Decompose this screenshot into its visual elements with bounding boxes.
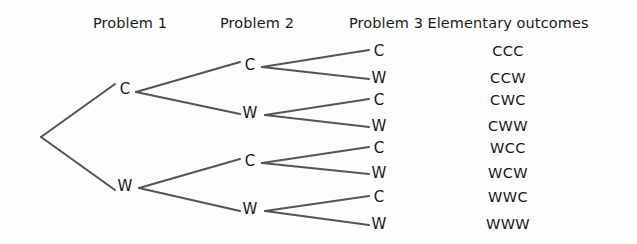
outcome-WWC: WWC — [488, 189, 528, 205]
tree-edge-level2-c-w-to-level3-cwc — [265, 99, 369, 115]
tree-edge-root-to-level1-w — [41, 137, 115, 190]
tree-node-level1-c: C — [120, 80, 131, 98]
tree-node-level3-cwc: C — [374, 91, 385, 109]
tree-edge-level1-c-to-level2-c-c — [136, 62, 240, 92]
tree-node-level3-wcw: W — [371, 164, 386, 182]
tree-edge-level2-w-c-to-level3-wcc — [262, 147, 369, 163]
tree-node-level3-wcc: C — [374, 139, 385, 157]
tree-node-level3-www: W — [371, 215, 386, 233]
tree-edge-level2-w-w-to-level3-wwc — [265, 196, 369, 211]
tree-node-level3-cww: W — [371, 117, 386, 135]
outcome-WCW: WCW — [488, 165, 528, 181]
tree-diagram-figure: Problem 1Problem 2Problem 3Elementary ou… — [0, 0, 637, 244]
tree-node-level3-ccw: W — [371, 69, 386, 87]
tree-edge-level1-w-to-level2-w-w — [139, 188, 240, 211]
tree-edge-root-to-level1-c — [41, 84, 115, 137]
tree-edge-level2-w-w-to-level3-www — [265, 211, 369, 225]
tree-node-level3-wwc: C — [374, 188, 385, 206]
outcome-CWW: CWW — [488, 118, 528, 134]
tree-edge-level1-w-to-level2-w-c — [139, 159, 240, 188]
outcome-WCC: WCC — [490, 140, 526, 156]
tree-node-level3-ccc: C — [374, 42, 385, 60]
column-header-4: Elementary outcomes — [427, 15, 588, 31]
column-header-1: Problem 1 — [93, 15, 167, 31]
tree-node-level2-w-w: W — [242, 200, 257, 218]
outcome-CCW: CCW — [490, 70, 526, 86]
tree-edge-level2-w-c-to-level3-wcw — [262, 163, 369, 174]
tree-node-level2-c-w: W — [242, 104, 257, 122]
tree-node-level2-w-c: C — [245, 152, 256, 170]
column-header-2: Problem 2 — [220, 15, 294, 31]
outcome-CWC: CWC — [490, 92, 526, 108]
tree-node-level1-w: W — [117, 177, 132, 195]
tree-edge-level2-c-c-to-level3-ccw — [262, 67, 369, 79]
outcome-CCC: CCC — [492, 43, 524, 59]
tree-edge-level2-c-w-to-level3-cww — [265, 115, 369, 127]
tree-edge-level2-c-c-to-level3-ccc — [262, 50, 369, 67]
tree-edge-level1-c-to-level2-c-w — [136, 92, 240, 114]
tree-edges-layer — [0, 0, 637, 244]
outcome-WWW: WWW — [486, 216, 530, 232]
tree-node-level2-c-c: C — [245, 56, 256, 74]
column-header-3: Problem 3 — [349, 15, 423, 31]
